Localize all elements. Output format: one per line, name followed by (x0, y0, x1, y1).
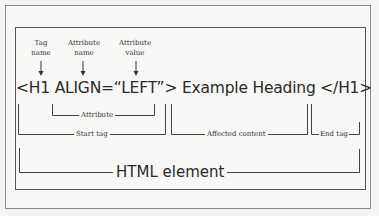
code-line: <H1 ALIGN=“LEFT”> Example Heading </H1> (16, 79, 372, 97)
label-html-element: HTML element (113, 163, 227, 181)
label-attribute: Attribute (79, 111, 115, 120)
label-end-tag: End tag (319, 130, 349, 139)
bracket-lines (0, 0, 379, 216)
label-affected-content: Affected content (205, 130, 268, 139)
label-start-tag: Start tag (74, 130, 110, 139)
